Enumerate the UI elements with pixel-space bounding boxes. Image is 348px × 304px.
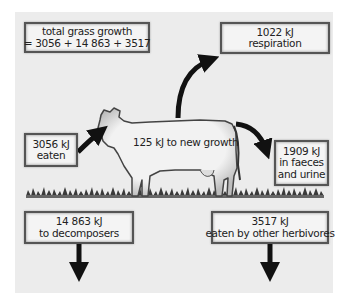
arrow-eaten-to-cow xyxy=(78,132,100,152)
arrow-to-faeces xyxy=(236,124,266,150)
respiration-box: 1022 kJ respiration xyxy=(220,22,330,54)
herbivores-label: eaten by other herbivores xyxy=(205,228,334,240)
arrow-to-respiration xyxy=(178,60,210,118)
decomposers-box: 14 863 kJ to decomposers xyxy=(24,211,134,244)
eaten-box: 3056 kJ eaten xyxy=(24,133,78,167)
decomposers-value: 14 863 kJ xyxy=(56,216,103,228)
total-grass-growth-title: total grass growth xyxy=(42,26,132,38)
eaten-label: eaten xyxy=(37,150,66,162)
grass-strip xyxy=(26,187,324,198)
faeces-urine-box: 1909 kJ in faeces and urine xyxy=(274,140,329,186)
respiration-label: respiration xyxy=(248,38,301,50)
cow-illustration xyxy=(98,108,240,196)
decomposers-label: to decomposers xyxy=(39,228,119,240)
total-grass-growth-equation: = 3056 + 14 863 + 3517 xyxy=(24,38,151,50)
new-growth-label: 125 kJ to new growth xyxy=(133,136,238,148)
other-herbivores-box: 3517 kJ eaten by other herbivores xyxy=(211,211,329,244)
faeces-label-line2: and urine xyxy=(278,169,325,181)
herbivores-value: 3517 kJ xyxy=(251,216,288,228)
total-grass-growth-box: total grass growth = 3056 + 14 863 + 351… xyxy=(24,22,150,53)
